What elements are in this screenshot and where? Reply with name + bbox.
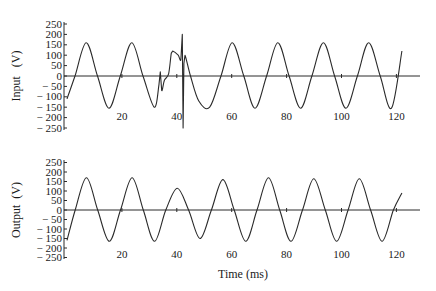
x-tick-label: 40 <box>171 110 183 122</box>
x-axis-title: Time (ms) <box>218 267 268 281</box>
y-tick-label: − 250 <box>37 251 63 263</box>
x-tick-label: 20 <box>116 248 128 260</box>
input-y-axis-title: Input (V) <box>9 51 23 102</box>
x-tick-label: 100 <box>333 248 350 260</box>
x-tick-label: 60 <box>226 248 238 260</box>
output-y-axis-title: Output (V) <box>9 182 23 238</box>
output-x-ticks: 20406080100120 <box>116 208 405 260</box>
x-tick-label: 20 <box>116 110 128 122</box>
x-tick-label: 120 <box>388 248 405 260</box>
chart-figure: 250200150100500− 50− 100− 150− 200− 250 … <box>0 0 436 291</box>
output-y-ticks: 250200150100500− 50− 100− 150− 200− 250 <box>37 156 67 263</box>
output-panel: 250200150100500− 50− 100− 150− 200− 250 … <box>9 156 420 281</box>
x-tick-label: 100 <box>333 110 350 122</box>
x-tick-label: 120 <box>388 110 405 122</box>
x-tick-label: 60 <box>226 110 238 122</box>
x-tick-label: 80 <box>281 110 293 122</box>
input-y-ticks: 250200150100500− 50− 100− 150− 200− 250 <box>37 18 67 134</box>
x-tick-label: 80 <box>281 248 293 260</box>
x-tick-label: 40 <box>171 248 183 260</box>
y-tick-label: − 250 <box>37 122 63 134</box>
input-panel: 250200150100500− 50− 100− 150− 200− 250 … <box>9 18 420 134</box>
